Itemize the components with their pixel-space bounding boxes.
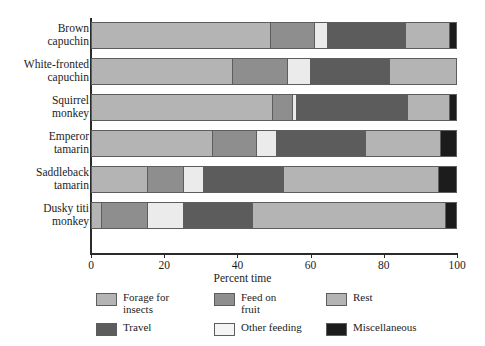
x-tick-label: 20 <box>158 259 170 271</box>
bar-segment-miscellaneous <box>449 95 456 120</box>
x-tick-mark <box>164 253 165 258</box>
y-axis-label-5: Dusky titimonkey <box>43 202 89 227</box>
y-axis-label-line: Brown <box>47 22 89 35</box>
bar-segment-miscellaneous <box>445 203 456 228</box>
bar-row <box>91 58 457 85</box>
x-tick-label: 100 <box>448 259 465 271</box>
x-tick-mark <box>311 253 312 258</box>
bar-segment-feed-on-fruit <box>147 167 183 192</box>
swatch-miscellaneous <box>326 323 347 336</box>
stacked-bar-chart: BrowncapuchinWhite-frontedcapuchinSquirr… <box>0 0 485 346</box>
stacked-bar <box>91 130 457 157</box>
legend-item-rest: Rest <box>326 292 426 315</box>
legend-label-line: Miscellaneous <box>353 322 417 334</box>
swatch-other-feeding <box>214 323 235 336</box>
bar-segment-rest <box>405 23 449 48</box>
bar-segment-other-feeding <box>256 131 276 156</box>
bar-segment-forage-for-insects <box>92 131 212 156</box>
bar-segment-feed-on-fruit <box>270 23 314 48</box>
swatch-forage-for-insects <box>96 293 117 306</box>
bar-segment-other-feeding <box>183 167 203 192</box>
bar-segment-rest <box>252 203 445 228</box>
y-axis-label-line: capuchin <box>47 35 89 48</box>
bar-segment-forage-for-insects <box>92 23 270 48</box>
bar-segment-rest <box>365 131 440 156</box>
bar-segment-travel <box>296 95 407 120</box>
bar-segment-other-feeding <box>147 203 183 228</box>
bar-segment-forage-for-insects <box>92 95 272 120</box>
y-axis-label-2: Squirrelmonkey <box>52 94 89 119</box>
y-axis-label-line: tamarin <box>49 143 89 156</box>
legend-label: Forage forinsects <box>123 292 169 315</box>
bar-segment-travel <box>327 23 405 48</box>
bar-segment-other-feeding <box>314 23 327 48</box>
bar-segment-feed-on-fruit <box>101 203 147 228</box>
bar-row <box>91 130 457 157</box>
legend-label-line: insects <box>123 304 169 316</box>
bar-row <box>91 94 457 121</box>
y-axis-label-line: Squirrel <box>52 94 89 107</box>
legend-row: Forage forinsectsFeed onfruitRest <box>96 292 426 315</box>
bar-segment-forage-for-insects <box>92 59 232 84</box>
y-axis-label-line: Saddleback <box>36 166 89 179</box>
bar-segment-miscellaneous <box>440 131 456 156</box>
legend-label: Feed onfruit <box>241 292 276 315</box>
stacked-bar <box>91 58 457 85</box>
bar-segment-rest <box>283 167 438 192</box>
y-axis-label-line: Dusky titi <box>43 202 89 215</box>
swatch-feed-on-fruit <box>214 293 235 306</box>
stacked-bar <box>91 22 457 49</box>
stacked-bar <box>91 166 457 193</box>
legend-label-line: Rest <box>353 292 373 304</box>
x-tick-label: 0 <box>88 259 94 271</box>
legend-label-line: Feed on <box>241 292 276 304</box>
bar-segment-other-feeding <box>287 59 311 84</box>
bar-row <box>91 22 457 49</box>
legend-item-feed-on-fruit: Feed onfruit <box>214 292 326 315</box>
bar-segment-forage-for-insects <box>92 203 101 228</box>
legend-label: Rest <box>353 292 373 304</box>
bar-segment-forage-for-insects <box>92 167 147 192</box>
y-axis-label-line: capuchin <box>24 71 89 84</box>
y-axis-label-line: monkey <box>52 107 89 120</box>
legend-item-other-feeding: Other feeding <box>214 322 326 336</box>
x-tick-mark <box>237 253 238 258</box>
x-tick-mark <box>384 253 385 258</box>
y-axis-label-line: White-fronted <box>24 58 89 71</box>
bar-segment-feed-on-fruit <box>212 131 256 156</box>
legend-row: TravelOther feedingMiscellaneous <box>96 322 426 336</box>
swatch-rest <box>326 293 347 306</box>
y-axis-label-1: White-frontedcapuchin <box>24 58 89 83</box>
y-axis-label-0: Browncapuchin <box>47 22 89 47</box>
bar-segment-travel <box>203 167 283 192</box>
bar-row <box>91 166 457 193</box>
legend-label-line: fruit <box>241 304 276 316</box>
y-axis-label-line: monkey <box>43 215 89 228</box>
legend-label: Other feeding <box>241 322 302 334</box>
bar-segment-rest <box>389 59 456 84</box>
x-axis-title: Percent time <box>0 272 485 284</box>
chart-legend: Forage forinsectsFeed onfruitRestTravelO… <box>96 292 426 343</box>
swatch-travel <box>96 323 117 336</box>
legend-item-miscellaneous: Miscellaneous <box>326 322 426 336</box>
legend-item-forage-for-insects: Forage forinsects <box>96 292 214 315</box>
legend-label: Travel <box>123 322 151 334</box>
x-tick-label: 40 <box>232 259 244 271</box>
legend-label-line: Other feeding <box>241 322 302 334</box>
y-axis-label-line: Emperor <box>49 130 89 143</box>
legend-label-line: Travel <box>123 322 151 334</box>
legend-label: Miscellaneous <box>353 322 417 334</box>
plot-area <box>91 22 457 250</box>
bar-segment-rest <box>407 95 449 120</box>
y-axis-label-line: tamarin <box>36 179 89 192</box>
stacked-bar <box>91 94 457 121</box>
x-tick-mark <box>91 253 92 258</box>
bar-segment-miscellaneous <box>449 23 456 48</box>
y-axis-label-4: Saddlebacktamarin <box>36 166 89 191</box>
x-tick-label: 60 <box>305 259 317 271</box>
bar-segment-miscellaneous <box>438 167 456 192</box>
legend-item-travel: Travel <box>96 322 214 336</box>
bar-row <box>91 202 457 229</box>
legend-label-line: Forage for <box>123 292 169 304</box>
y-axis-label-3: Emperortamarin <box>49 130 89 155</box>
